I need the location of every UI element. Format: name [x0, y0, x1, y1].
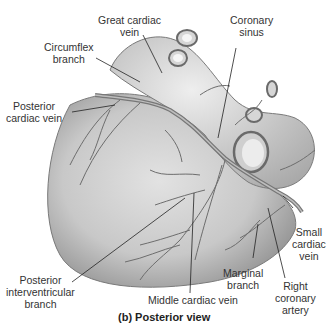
label-marginal-branch: Marginal branch	[223, 267, 263, 291]
label-coronary-sinus: Coronary sinus	[230, 14, 273, 38]
figure-caption: (b) Posterior view	[118, 311, 210, 323]
vessel-opening-3	[267, 81, 277, 97]
label-great-cardiac-vein: Great cardiac vein	[98, 14, 161, 38]
label-posterior-cardiac-vein: Posterior cardiac vein	[6, 100, 62, 124]
label-posterior-interventricular-branch: Posterior interventricular branch	[6, 274, 75, 310]
label-circumflex-branch: Circumflex branch	[44, 41, 94, 65]
label-middle-cardiac-vein: Middle cardiac vein	[148, 294, 238, 306]
heart-diagram: Great cardiac vein Coronary sinus Circum…	[0, 0, 326, 331]
label-right-coronary-artery: Right coronary artery	[275, 280, 316, 316]
label-small-cardiac-vein: Small cardiac vein	[292, 226, 326, 262]
